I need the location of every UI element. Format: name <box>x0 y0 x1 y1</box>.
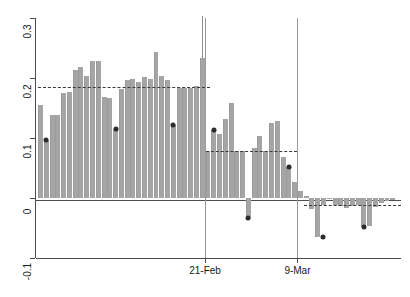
bar <box>292 182 297 198</box>
y-tick-label: 0 <box>22 197 33 227</box>
data-point <box>361 225 366 230</box>
bar <box>309 198 314 209</box>
bar <box>171 125 176 198</box>
bar <box>211 130 216 198</box>
bar <box>67 92 72 198</box>
reference-line <box>38 87 210 88</box>
data-point <box>113 127 118 132</box>
x-axis-line <box>36 258 401 259</box>
data-point <box>286 164 291 169</box>
data-point <box>321 235 326 240</box>
bar <box>206 151 211 198</box>
bar <box>182 88 187 198</box>
x-tick <box>205 258 206 263</box>
data-point <box>44 137 49 142</box>
bar <box>304 196 309 198</box>
bar <box>125 80 130 198</box>
bar <box>177 88 182 198</box>
bar <box>269 123 274 198</box>
bar <box>263 151 268 198</box>
y-tick-label: 0.3 <box>22 17 33 47</box>
bar <box>257 136 262 198</box>
bar <box>90 61 95 198</box>
bar <box>356 198 361 205</box>
bar <box>361 198 366 227</box>
bar <box>55 115 60 198</box>
bar <box>61 93 66 198</box>
bar <box>119 89 124 198</box>
bar <box>252 148 257 198</box>
data-point <box>171 122 176 127</box>
bar <box>142 77 147 198</box>
bar <box>154 52 159 198</box>
bar <box>200 58 205 198</box>
bar <box>333 198 338 205</box>
reference-line <box>304 205 401 206</box>
y-tick-label: 0.2 <box>22 77 33 107</box>
bar <box>234 151 239 198</box>
bar <box>390 198 395 200</box>
bar <box>240 151 245 198</box>
bar <box>275 121 280 198</box>
bar <box>44 140 49 198</box>
bar <box>73 70 78 198</box>
event-line <box>297 18 298 258</box>
bar <box>286 167 291 198</box>
bar <box>315 198 320 237</box>
chart-container: 0.30.20.10-0.1 21-Feb9-Mar <box>0 0 410 297</box>
bar <box>159 76 164 198</box>
bar <box>136 82 141 198</box>
plot-area <box>36 18 401 258</box>
bar <box>385 198 390 201</box>
bar <box>38 105 43 198</box>
bar <box>367 198 372 226</box>
bar-spike <box>202 16 203 57</box>
bar <box>113 129 118 198</box>
bar <box>102 97 107 198</box>
event-line <box>205 18 206 258</box>
bar <box>84 76 89 198</box>
x-tick-label: 9-Mar <box>284 265 310 276</box>
bar <box>223 119 228 198</box>
y-tick-label: -0.1 <box>22 257 33 287</box>
bar <box>217 134 222 198</box>
bar <box>165 80 170 198</box>
bar <box>379 198 384 203</box>
bar <box>188 88 193 198</box>
bar <box>96 61 101 198</box>
data-point <box>211 128 216 133</box>
reference-line <box>206 151 298 152</box>
data-point <box>246 216 251 221</box>
bar <box>281 157 286 198</box>
bar <box>130 79 135 198</box>
x-tick-label: 21-Feb <box>189 265 221 276</box>
x-tick <box>297 258 298 263</box>
bar <box>321 198 326 205</box>
bar <box>298 191 303 198</box>
bar <box>327 198 332 199</box>
bar <box>194 86 199 198</box>
bar <box>148 79 153 198</box>
y-tick-label: 0.1 <box>22 137 33 167</box>
bar <box>50 115 55 198</box>
bar <box>107 98 112 198</box>
